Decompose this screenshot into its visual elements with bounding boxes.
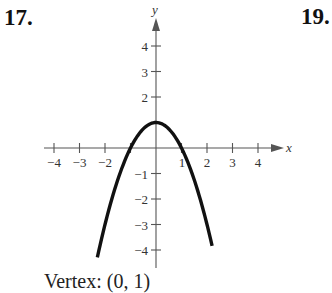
y-tick-label: −1	[134, 167, 148, 182]
y-tick-label: 2	[142, 90, 149, 105]
x-tick-label: 4	[255, 155, 262, 170]
y-axis-arrow-icon	[152, 18, 160, 31]
x-axis-label: x	[285, 140, 292, 155]
x-tick-label: 3	[229, 155, 236, 170]
x-tick-label: −4	[47, 155, 61, 170]
y-tick-label: −3	[134, 218, 148, 233]
x-axis-arrow-icon	[271, 144, 284, 152]
x-tick-label: −3	[73, 155, 87, 170]
x-tick-label: −2	[98, 155, 112, 170]
x-tick-label: 2	[204, 155, 211, 170]
y-tick-label: 4	[142, 39, 149, 54]
vertex-caption: Vertex: (0, 1)	[44, 270, 150, 293]
y-axis-label: y	[150, 2, 158, 17]
y-tick-label: −4	[134, 243, 148, 258]
y-tick-label: 3	[142, 65, 149, 80]
parabola-curve	[97, 123, 212, 258]
y-tick-label: −2	[134, 192, 148, 207]
